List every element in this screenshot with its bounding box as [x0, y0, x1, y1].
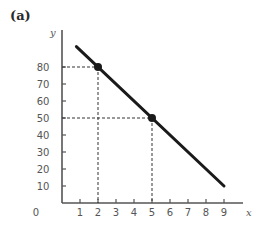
- origin-label: 0: [33, 207, 39, 218]
- y-axis-label: y: [49, 27, 56, 38]
- tick-labels: 12345678910203040506070800xy: [33, 27, 252, 218]
- y-tick-label: 60: [37, 96, 50, 107]
- x-tick-label: 7: [185, 207, 191, 218]
- x-axis-label: x: [246, 207, 252, 218]
- y-tick-label: 70: [37, 79, 50, 90]
- chart: (a) 12345678910203040506070800xy: [0, 0, 265, 229]
- x-tick-label: 2: [95, 207, 101, 218]
- y-tick-label: 50: [37, 113, 50, 124]
- x-tick-label: 9: [221, 207, 227, 218]
- y-tick-label: 30: [37, 147, 50, 158]
- x-tick-label: 3: [113, 207, 119, 218]
- x-tick-label: 1: [77, 207, 83, 218]
- y-tick-label: 10: [37, 181, 50, 192]
- panel-label: (a): [10, 8, 31, 23]
- x-tick-label: 6: [167, 207, 173, 218]
- guide-lines: [62, 67, 152, 203]
- data-point: [94, 63, 102, 71]
- y-tick-label: 80: [37, 62, 50, 73]
- data-point: [148, 114, 156, 122]
- y-tick-label: 20: [37, 164, 50, 175]
- y-tick-label: 40: [37, 130, 50, 141]
- x-tick-label: 4: [131, 207, 137, 218]
- x-tick-label: 5: [149, 207, 155, 218]
- x-tick-label: 8: [203, 207, 209, 218]
